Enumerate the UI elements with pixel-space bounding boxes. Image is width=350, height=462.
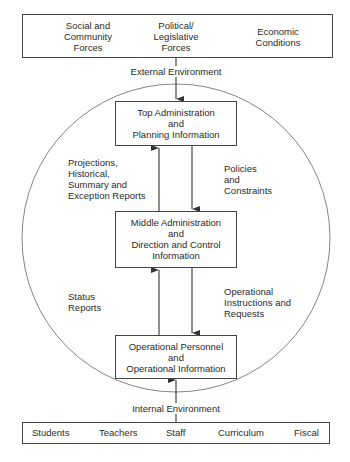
internal-item-teachers: Teachers xyxy=(99,427,138,438)
level-line: Operational Information xyxy=(115,363,237,374)
internal-item-fiscal: Fiscal xyxy=(294,427,319,438)
flow-line: Operational xyxy=(224,286,291,297)
force-line: Social and xyxy=(48,20,128,31)
level-line: Operational Personnel xyxy=(115,341,237,352)
internal-environment-label: Internal Environment xyxy=(96,403,256,414)
flow-line: Constraints xyxy=(224,185,272,196)
flow-line: Historical, xyxy=(68,168,146,179)
flow-line: Status xyxy=(68,291,101,302)
level-line: and xyxy=(115,118,237,129)
level-line: Middle Administration xyxy=(115,217,237,228)
flow-line: Projections, xyxy=(68,157,146,168)
lower-up-flow-label: Status Reports xyxy=(68,291,101,313)
external-environment-text: External Environment xyxy=(129,66,224,77)
force-political-legislative: Political/ Legislative Forces xyxy=(136,20,216,53)
lower-down-flow-label: Operational Instructions and Requests xyxy=(224,286,291,319)
force-line: Conditions xyxy=(238,37,318,48)
force-line: Community xyxy=(48,31,128,42)
level-line: and xyxy=(115,228,237,239)
level-line: Information xyxy=(115,250,237,261)
force-line: Political/ xyxy=(136,20,216,31)
top-administration-text: Top Administration and Planning Informat… xyxy=(115,107,237,140)
external-environment-label: External Environment xyxy=(96,66,256,77)
level-line: Direction and Control xyxy=(115,239,237,250)
force-line: Forces xyxy=(48,42,128,53)
force-line: Legislative xyxy=(136,31,216,42)
force-social-community: Social and Community Forces xyxy=(48,20,128,53)
flow-line: Requests xyxy=(224,308,291,319)
flow-line: Reports xyxy=(68,302,101,313)
internal-item-students: Students xyxy=(32,427,70,438)
level-line: Top Administration xyxy=(115,107,237,118)
flow-line: Policies xyxy=(224,163,272,174)
force-line: Economic xyxy=(238,26,318,37)
middle-administration-text: Middle Administration and Direction and … xyxy=(115,217,237,261)
internal-item-curriculum: Curriculum xyxy=(218,427,264,438)
force-line: Forces xyxy=(136,42,216,53)
flow-line: Exception Reports xyxy=(68,190,146,201)
operational-personnel-text: Operational Personnel and Operational In… xyxy=(115,341,237,374)
level-line: and xyxy=(115,352,237,363)
flow-line: and xyxy=(224,174,272,185)
flow-line: Summary and xyxy=(68,179,146,190)
upper-up-flow-label: Projections, Historical, Summary and Exc… xyxy=(68,157,146,201)
flow-line: Instructions and xyxy=(224,297,291,308)
upper-down-flow-label: Policies and Constraints xyxy=(224,163,272,196)
force-economic-conditions: Economic Conditions xyxy=(238,26,318,48)
level-line: Planning Information xyxy=(115,129,237,140)
internal-item-staff: Staff xyxy=(166,427,185,438)
internal-environment-text: Internal Environment xyxy=(130,403,222,414)
